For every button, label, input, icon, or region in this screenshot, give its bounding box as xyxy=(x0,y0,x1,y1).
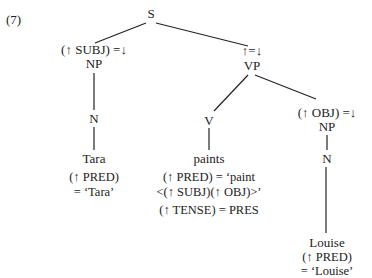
word-tara: Tara xyxy=(83,152,106,166)
node-vp: VP xyxy=(244,59,261,73)
edge-vp-np xyxy=(255,75,316,99)
word-louise: Louise xyxy=(309,236,344,250)
edge-vp-v xyxy=(214,75,248,111)
node-np-obj: NP xyxy=(319,120,336,134)
node-np-subj: NP xyxy=(86,57,103,71)
tara-pred-line2: = ‘Tara’ xyxy=(74,185,115,199)
paints-pred-line2: <(↑ SUBJ)(↑ OBJ)>’ xyxy=(156,185,261,199)
paints-tense: (↑ TENSE) = PRES xyxy=(159,203,259,217)
louise-pred-line1: (↑ PRED) xyxy=(302,250,352,264)
tara-pred-line1: (↑ PRED) xyxy=(69,170,119,184)
np-obj-annotation: (↑ OBJ) =↓ xyxy=(298,106,357,120)
louise-pred-line2: = ‘Louise’ xyxy=(301,264,354,278)
node-v: V xyxy=(204,114,213,128)
vp-annotation: ↑=↓ xyxy=(242,44,262,58)
np-subj-annotation: (↑ SUBJ) =↓ xyxy=(61,43,127,57)
edge-s-vp xyxy=(156,23,248,46)
node-n-obj: N xyxy=(322,152,331,166)
word-paints: paints xyxy=(193,152,224,166)
node-n-subj: N xyxy=(89,112,98,126)
edge-s-np xyxy=(95,23,146,43)
paints-pred-line1: (↑ PRED) = ‘paint xyxy=(163,170,255,184)
node-s: S xyxy=(147,7,154,21)
